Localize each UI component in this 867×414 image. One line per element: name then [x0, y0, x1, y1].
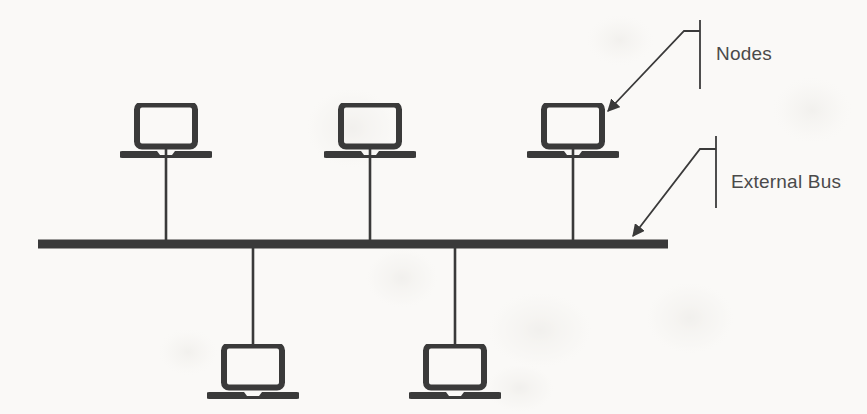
callout-label-nodes: Nodes	[716, 44, 772, 63]
bus-topology-diagram: Nodes External Bus	[0, 0, 867, 414]
external-bus-bar	[38, 240, 668, 249]
callout-label-external-bus: External Bus	[731, 172, 841, 191]
